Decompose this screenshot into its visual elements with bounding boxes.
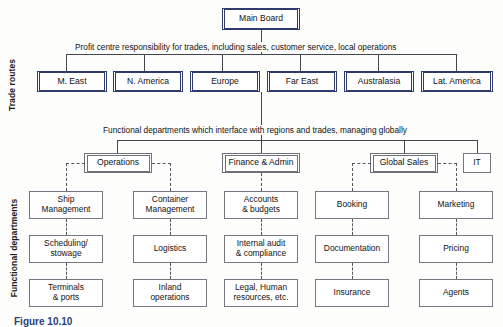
node-booking[interactable]: Booking: [315, 191, 389, 219]
node-agents-line1: Agents: [443, 288, 469, 298]
node-legal-human-resources-line2: resources, etc.: [234, 293, 289, 303]
node-documentation[interactable]: Documentation: [315, 235, 389, 263]
connector-col5-2-3: [456, 263, 457, 279]
connector-col4-2-3: [352, 263, 353, 279]
node-inland-operations-line2: operations: [150, 293, 189, 303]
node-accounts-budgets-line2: & budgets: [242, 205, 280, 215]
node-trade-route-europe[interactable]: Europe: [190, 71, 260, 92]
note-trade-routes: Profit centre responsibility for trades,…: [72, 42, 399, 52]
connector-sales-left-down: [352, 163, 353, 191]
node-trade-route-australasia-label: Australasia: [346, 72, 412, 91]
node-trade-route-lat-america[interactable]: Lat. America: [421, 71, 493, 92]
node-container-management-line2: Management: [146, 205, 195, 215]
connector-operations-left-down: [66, 163, 67, 191]
node-department-operations[interactable]: Operations: [84, 153, 152, 173]
org-chart-diagram: Trade routes Functional departments Main…: [0, 0, 503, 327]
node-department-finance-admin[interactable]: Finance & Admin: [222, 153, 300, 173]
connector-sales-right-arm: [438, 163, 457, 164]
node-trade-route-m-east-label: M. East: [39, 72, 105, 91]
connector-trade-bus: [66, 54, 457, 55]
side-label-trade-routes: Trade routes: [7, 47, 17, 123]
connector-dept-drop-it: [477, 140, 478, 153]
connector-dept-drop-operations: [117, 140, 118, 153]
connector-col1-2-3: [66, 263, 67, 279]
node-department-it[interactable]: IT: [463, 153, 491, 173]
connector-dept-drop-finance: [261, 140, 262, 153]
node-legal-human-resources[interactable]: Legal, Human resources, etc.: [224, 279, 298, 307]
node-department-operations-label: Operations: [87, 155, 150, 172]
node-insurance-line1: Insurance: [334, 288, 371, 298]
connector-operations-right-down: [170, 163, 171, 191]
connector-col1-1-2: [66, 219, 67, 235]
node-department-global-sales[interactable]: Global Sales: [370, 153, 438, 173]
node-ship-management[interactable]: Ship Management: [29, 191, 103, 219]
node-scheduling-stowage-line2: stowage: [50, 249, 81, 259]
node-trade-route-n-america-label: N. America: [115, 72, 181, 91]
node-department-finance-admin-label: Finance & Admin: [225, 155, 298, 172]
node-internal-audit-compliance[interactable]: Internal audit & compliance: [224, 235, 298, 263]
node-agents[interactable]: Agents: [419, 279, 493, 307]
node-terminals-ports-line2: & ports: [53, 293, 80, 303]
node-trade-route-m-east[interactable]: M. East: [37, 71, 107, 92]
connector-functional-bus: [117, 140, 477, 141]
node-trade-route-europe-label: Europe: [192, 72, 258, 91]
node-scheduling-stowage[interactable]: Scheduling/ stowage: [29, 235, 103, 263]
node-pricing[interactable]: Pricing: [419, 235, 493, 263]
connector-trade-drop-2: [144, 54, 145, 71]
node-inland-operations[interactable]: Inland operations: [133, 279, 207, 307]
node-trade-route-far-east-label: Far East: [269, 72, 335, 91]
node-department-global-sales-label: Global Sales: [373, 155, 436, 172]
node-pricing-line1: Pricing: [443, 244, 469, 254]
node-accounts-budgets[interactable]: Accounts & budgets: [224, 191, 298, 219]
connector-col2-2-3: [170, 263, 171, 279]
connector-trade-drop-1: [66, 54, 67, 71]
connector-finance-down: [261, 173, 262, 191]
node-trade-route-australasia[interactable]: Australasia: [344, 71, 414, 92]
connector-trade-drop-6: [456, 54, 457, 71]
connector-col5-1-2: [456, 219, 457, 235]
connector-col4-1-2: [352, 219, 353, 235]
node-logistics-line1: Logistics: [154, 244, 187, 254]
node-insurance[interactable]: Insurance: [315, 279, 389, 307]
node-documentation-line1: Documentation: [324, 244, 380, 254]
note-functional-departments: Functional departments which interface w…: [100, 125, 410, 135]
connector-trade-drop-5: [378, 54, 379, 71]
node-trade-route-far-east[interactable]: Far East: [267, 71, 337, 92]
node-main-board-label: Main Board: [224, 9, 298, 29]
connector-col3-1-2: [261, 219, 262, 235]
connector-col2-1-2: [170, 219, 171, 235]
figure-caption: Figure 10.10: [14, 316, 72, 327]
connector-operations-left-arm: [66, 163, 85, 164]
connector-trade-drop-3: [222, 54, 223, 71]
node-trade-route-lat-america-label: Lat. America: [423, 72, 491, 91]
side-label-functional-departments: Functional departments: [9, 188, 19, 308]
node-container-management[interactable]: Container Management: [133, 191, 207, 219]
node-ship-management-line2: Management: [42, 205, 91, 215]
node-marketing-line1: Marketing: [438, 200, 475, 210]
node-terminals-ports[interactable]: Terminals & ports: [29, 279, 103, 307]
node-booking-line1: Booking: [337, 200, 367, 210]
node-logistics[interactable]: Logistics: [133, 235, 207, 263]
node-main-board[interactable]: Main Board: [222, 8, 300, 30]
connector-trade-drop-4: [300, 54, 301, 71]
node-internal-audit-compliance-line2: & compliance: [236, 249, 286, 259]
node-trade-route-n-america[interactable]: N. America: [113, 71, 183, 92]
connector-sales-left-arm: [352, 163, 371, 164]
node-marketing[interactable]: Marketing: [419, 191, 493, 219]
connector-operations-right-arm: [152, 163, 171, 164]
connector-col3-2-3: [261, 263, 262, 279]
connector-sales-right-down: [456, 163, 457, 191]
connector-dept-drop-sales: [404, 140, 405, 153]
